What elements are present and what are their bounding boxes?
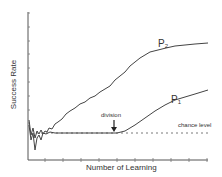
- series-label-p2-main: P: [158, 38, 165, 49]
- series-label-p1-main: P: [171, 94, 178, 105]
- series-label-p1: P1: [171, 94, 181, 105]
- chart-canvas: [0, 0, 222, 177]
- chance-level-annotation: chance level: [178, 122, 211, 128]
- y-axis-label: Success Rate: [9, 55, 18, 115]
- x-axis-label: Number of Learning: [86, 163, 157, 172]
- series-label-p2: P2: [158, 38, 168, 49]
- division-annotation: division: [101, 112, 121, 118]
- series-label-p2-sub: 2: [165, 43, 168, 49]
- series-label-p1-sub: 1: [178, 99, 181, 105]
- series-p1-line: [29, 90, 208, 150]
- division-arrow-icon: [111, 120, 117, 132]
